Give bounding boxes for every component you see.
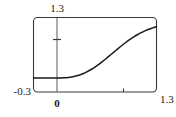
data-curve — [34, 27, 157, 78]
x-axis-max-label: 1.3 — [160, 94, 174, 105]
plot-screenshot: 1.3 -0.3 0 1.3 — [0, 0, 176, 117]
plot-frame — [34, 18, 157, 93]
x-axis-origin-label: 0 — [54, 98, 60, 109]
y-axis-max-label: 1.3 — [50, 3, 64, 14]
y-axis-min-label: -0.3 — [14, 86, 31, 97]
plot-figure — [0, 0, 176, 117]
